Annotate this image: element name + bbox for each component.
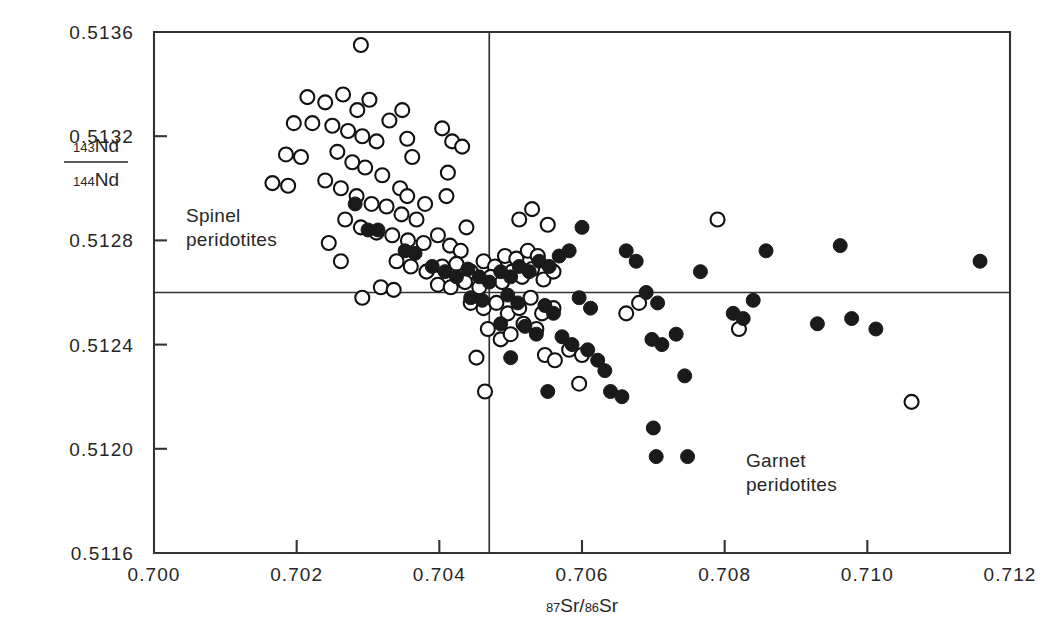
data-point [408, 246, 422, 260]
data-point [318, 95, 332, 109]
data-point [905, 395, 919, 409]
data-point [562, 244, 576, 258]
data-point [655, 338, 669, 352]
data-point [400, 132, 414, 146]
garnet-peridotites-annotation: Garnet peridotites [746, 450, 837, 495]
data-point [651, 296, 665, 310]
data-point [542, 259, 556, 273]
x-tick-label-6: 0.712 [983, 564, 1036, 585]
data-point [629, 254, 643, 268]
data-point [322, 236, 336, 250]
y-tick-label-0: 0.5116 [71, 543, 134, 564]
data-point [265, 176, 279, 190]
data-point [584, 301, 598, 315]
data-point [548, 353, 562, 367]
data-point [441, 166, 455, 180]
x-tick-label-2: 0.704 [413, 564, 466, 585]
data-point [431, 228, 445, 242]
data-point [382, 114, 396, 128]
data-point [305, 116, 319, 130]
data-point [481, 322, 495, 336]
data-point [475, 293, 489, 307]
data-point [482, 275, 496, 289]
data-point [334, 181, 348, 195]
data-point [395, 103, 409, 117]
x-base-sr1: Sr [560, 595, 580, 616]
data-point [711, 213, 725, 227]
y-numerator-base: Nd [95, 135, 119, 156]
data-point [693, 265, 707, 279]
x-tick-label-4: 0.708 [698, 564, 751, 585]
data-point [504, 351, 518, 365]
x-base-sr2: Sr [599, 595, 619, 616]
x-tick-label-1: 0.702 [270, 564, 323, 585]
data-point [973, 254, 987, 268]
x-tick-label-0: 0.700 [127, 564, 180, 585]
data-point [759, 244, 773, 258]
data-point [681, 450, 695, 464]
y-tick-label-5: 0.5136 [69, 22, 134, 43]
data-point [400, 189, 414, 203]
data-point [522, 265, 536, 279]
x-superscript-87: 87 [546, 600, 560, 615]
data-point [341, 124, 355, 138]
data-point [355, 291, 369, 305]
data-point [354, 38, 368, 52]
data-point [598, 364, 612, 378]
data-point [541, 218, 555, 232]
data-point [439, 189, 453, 203]
x-axis-label: 87Sr/86Sr [546, 595, 619, 616]
y-axis-label: 143Nd 144Nd [64, 135, 128, 190]
data-point [318, 173, 332, 187]
x-tick-label-5: 0.710 [841, 564, 894, 585]
data-point [330, 145, 344, 159]
data-point [572, 291, 586, 305]
spinel-label-line2: peridotites [186, 229, 277, 250]
caption-sliver [8, 630, 408, 637]
data-point [336, 88, 350, 102]
data-point [572, 377, 586, 391]
data-point [511, 296, 525, 310]
data-point [365, 197, 379, 211]
data-point [504, 327, 518, 341]
y-tick-label-3: 0.5128 [69, 230, 134, 251]
spinel-label-line1: Spinel [186, 205, 241, 226]
data-point [525, 202, 539, 216]
data-point [459, 220, 473, 234]
x-tick-label-3: 0.706 [555, 564, 608, 585]
data-point [348, 197, 362, 211]
data-point [385, 228, 399, 242]
data-point [370, 134, 384, 148]
data-point [300, 90, 314, 104]
figure-root: 0.51160.51200.51240.51280.51320.51360.70… [0, 0, 1044, 637]
y-tick-label-2: 0.5124 [69, 335, 134, 356]
data-point [869, 322, 883, 336]
data-point [325, 119, 339, 133]
spinel-peridotites-annotation: Spinel peridotites [186, 205, 277, 250]
data-point [371, 223, 385, 237]
data-point [294, 150, 308, 164]
scatter-plot: 0.51160.51200.51240.51280.51320.51360.70… [0, 0, 1044, 637]
data-point [478, 384, 492, 398]
data-point [619, 306, 633, 320]
data-point [338, 213, 352, 227]
data-point [281, 179, 295, 193]
data-point [575, 220, 589, 234]
data-point [350, 103, 364, 117]
data-point [279, 147, 293, 161]
data-point [736, 312, 750, 326]
data-point [425, 259, 439, 273]
data-point [387, 283, 401, 297]
data-point [405, 150, 419, 164]
data-point [529, 327, 543, 341]
data-point [639, 286, 653, 300]
data-point [615, 390, 629, 404]
y-denominator-base: Nd [95, 169, 119, 190]
data-point [469, 351, 483, 365]
garnet-label-line2: peridotites [746, 474, 837, 495]
data-point [649, 450, 663, 464]
data-point [418, 197, 432, 211]
x-superscript-86: 86 [585, 600, 599, 615]
data-point [678, 369, 692, 383]
data-point [334, 254, 348, 268]
